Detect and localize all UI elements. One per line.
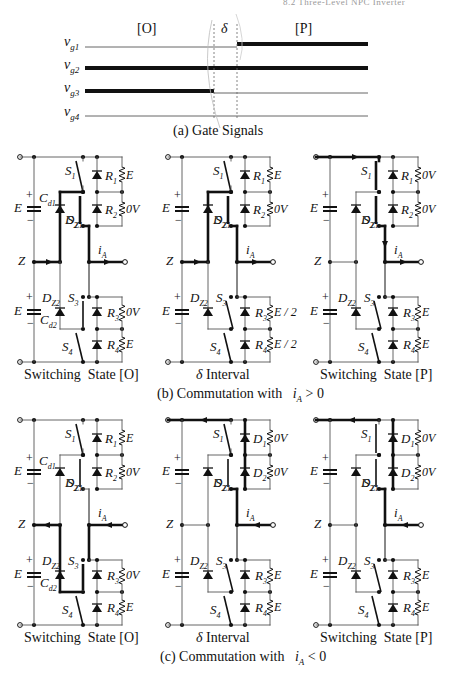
switching-state-title: Switching State [O] (24, 630, 139, 646)
diode-icon (203, 205, 213, 213)
junction-dot (81, 558, 85, 562)
minus-sign: − (175, 316, 182, 331)
dc-source-label: E (310, 200, 318, 216)
device-label-3: R3 (403, 568, 415, 586)
device-label-1: D1 (401, 431, 414, 449)
switch-label-s2: S2 (363, 475, 374, 493)
switch-open-icon (76, 596, 83, 625)
plus-sign: + (26, 290, 33, 305)
resistor-icon (119, 568, 125, 584)
plus-sign: + (26, 188, 33, 203)
clamp-diode-label-dz2: DZ2 (190, 290, 208, 308)
current-arrow-icon (43, 522, 50, 528)
junction-dot (229, 295, 233, 299)
device-label-2: R2 (105, 465, 117, 483)
resistor-icon (267, 465, 273, 479)
junction-dot (229, 590, 233, 594)
voltage-label-3: E (422, 568, 429, 583)
switch-label-s2: S2 (67, 475, 78, 493)
dc-source-label: E (162, 303, 170, 319)
diode-icon (351, 308, 361, 316)
diode-icon (240, 571, 250, 579)
junction-dot (391, 590, 395, 594)
junction-dot (243, 453, 247, 457)
junction-dot (81, 453, 85, 457)
device-label-3: R3 (255, 568, 267, 586)
current-arrow-icon (194, 259, 201, 265)
junction-dot (243, 590, 247, 594)
dc-source-label: E (310, 566, 318, 582)
voltage-label-4: E (422, 337, 429, 352)
switch-open-icon (224, 161, 231, 192)
output-current-label: iA (394, 242, 403, 260)
switch-open-icon (224, 596, 231, 625)
plus-sign: + (174, 451, 181, 466)
minus-sign: − (175, 213, 182, 228)
terminal (123, 523, 128, 528)
diode-icon (240, 434, 250, 442)
junction-dot (95, 327, 99, 331)
switch-label-s2: S2 (215, 212, 226, 230)
plus-sign: + (322, 290, 329, 305)
junction-dot (95, 190, 99, 194)
minus-sign: − (27, 213, 34, 228)
junction-dot (377, 590, 381, 594)
terminal (271, 523, 276, 528)
voltage-label-1: 0V (422, 168, 435, 183)
neutral-point-label: Z (166, 253, 173, 269)
resistor-icon (415, 337, 421, 352)
current-arrow-icon (382, 241, 388, 248)
voltage-label-3: E / 2 (274, 305, 297, 320)
clamp-diode-label-dz2: DZ2 (338, 553, 356, 571)
diode-icon (388, 468, 398, 476)
neutral-point-label: Z (18, 253, 25, 269)
neutral-point-label: Z (166, 516, 173, 532)
switching-state-title: δ Interval (196, 630, 250, 646)
junction-dot (391, 487, 395, 491)
device-label-1: D1 (253, 431, 266, 449)
resistor-icon (119, 202, 125, 216)
resistor-icon (415, 600, 421, 615)
switching-state-title: δ Interval (196, 367, 250, 383)
plus-sign: + (322, 553, 329, 568)
minus-sign: − (175, 579, 182, 594)
current-arrow-icon (252, 259, 259, 265)
minus-sign: − (323, 213, 330, 228)
resistor-icon (415, 305, 421, 321)
switching-state-title: Switching State [P] (320, 367, 432, 383)
dc-source-label: E (162, 463, 170, 479)
voltage-label-1: E (126, 168, 133, 183)
resistor-icon (267, 568, 273, 584)
minus-sign: − (27, 316, 34, 331)
diode-icon (55, 468, 65, 476)
output-current-label: iA (246, 505, 255, 523)
switch-open-icon (226, 301, 233, 329)
device-label-1: R1 (401, 168, 413, 186)
resistor-icon (415, 465, 421, 479)
current-arrow-icon (352, 154, 359, 160)
switch-open-icon (226, 564, 233, 592)
dc-source-label: E (310, 303, 318, 319)
switch-label-s1: S1 (213, 163, 224, 181)
resistor-icon (119, 465, 125, 479)
device-label-3: R3 (255, 305, 267, 323)
resistor-icon (119, 337, 125, 352)
voltage-label-4: E (274, 600, 281, 615)
dc-source-label: E (14, 200, 22, 216)
diode-icon (388, 571, 398, 579)
dc-source-label: E (162, 200, 170, 216)
resistor-icon (119, 167, 125, 182)
voltage-label-2: 0V (126, 465, 139, 480)
junction-dot (81, 327, 85, 331)
junction-dot (95, 224, 99, 228)
junction-dot (391, 190, 395, 194)
switch-label-s3: S3 (216, 553, 227, 571)
resistor-icon (415, 568, 421, 584)
switch-open-icon (76, 161, 83, 192)
junction-dot (229, 190, 233, 194)
switch-label-s4: S4 (62, 602, 73, 620)
resistor-icon (119, 430, 125, 445)
dc-source-label: E (14, 463, 22, 479)
neutral-point-label: Z (18, 516, 25, 532)
plus-sign: + (26, 553, 33, 568)
